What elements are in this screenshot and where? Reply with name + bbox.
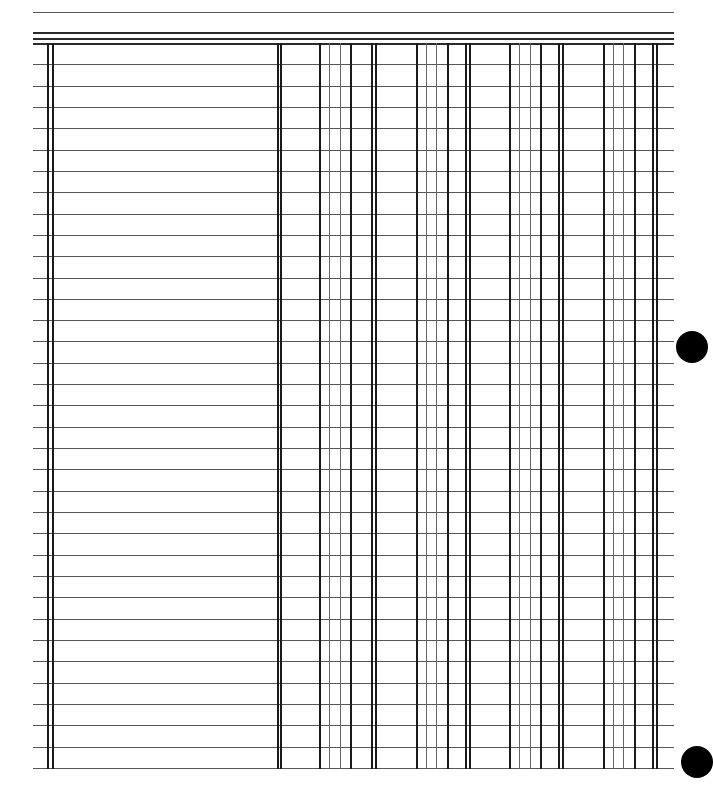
amount-column-line: [603, 43, 605, 769]
row-rule: [33, 512, 674, 513]
row-rule: [33, 256, 674, 257]
digit-separator: [530, 43, 531, 769]
row-rule: [33, 171, 674, 172]
amount-column-divider: [465, 43, 467, 769]
row-rule: [33, 491, 674, 492]
row-rule: [33, 405, 674, 406]
row-rule: [33, 235, 674, 236]
column-divider: [52, 43, 54, 769]
row-rule: [33, 555, 674, 556]
digit-separator: [329, 43, 330, 769]
amount-column-line: [447, 43, 449, 769]
row-rule: [33, 747, 674, 748]
row-rule: [33, 619, 674, 620]
row-rule: [33, 320, 674, 321]
row-rule: [33, 427, 674, 428]
punch-hole-icon: [676, 331, 708, 363]
digit-separator: [623, 43, 624, 769]
header-rule: [33, 32, 674, 34]
row-rule: [33, 299, 674, 300]
amount-column-line: [540, 43, 542, 769]
amount-column-line: [350, 43, 352, 769]
amount-column-line: [319, 43, 321, 769]
row-rule: [33, 533, 674, 534]
digit-separator: [426, 43, 427, 769]
row-rule: [33, 661, 674, 662]
digit-separator: [613, 43, 614, 769]
digit-separator: [519, 43, 520, 769]
amount-column-divider: [375, 43, 377, 769]
row-rule: [33, 192, 674, 193]
row-rule: [33, 384, 674, 385]
row-rule: [33, 576, 674, 577]
amount-column-divider: [469, 43, 471, 769]
top-rule: [33, 12, 674, 13]
column-divider: [277, 43, 279, 769]
row-rule: [33, 341, 674, 342]
row-rule: [33, 448, 674, 449]
column-divider: [47, 43, 49, 769]
row-rule: [33, 725, 674, 726]
row-rule: [33, 128, 674, 129]
row-rule: [33, 704, 674, 705]
amount-column-line: [509, 43, 511, 769]
row-rule: [33, 683, 674, 684]
row-rule: [33, 107, 674, 108]
amount-column-line: [416, 43, 418, 769]
amount-column-divider: [652, 43, 654, 769]
row-rule: [33, 597, 674, 598]
row-rule: [33, 363, 674, 364]
digit-separator: [340, 43, 341, 769]
punch-hole-icon: [681, 746, 713, 778]
amount-column-divider: [371, 43, 373, 769]
row-rule: [33, 64, 674, 65]
header-rule: [33, 38, 674, 40]
row-rule: [33, 640, 674, 641]
row-rule: [33, 214, 674, 215]
amount-column-line: [634, 43, 636, 769]
amount-column-divider: [656, 43, 658, 769]
amount-column-divider: [558, 43, 560, 769]
row-rule: [33, 469, 674, 470]
row-rule: [33, 150, 674, 151]
row-rule: [33, 278, 674, 279]
header-rule: [33, 43, 674, 45]
amount-column-divider: [562, 43, 564, 769]
column-divider: [280, 43, 282, 769]
digit-separator: [436, 43, 437, 769]
row-rule: [33, 86, 674, 87]
row-rule: [33, 768, 674, 769]
